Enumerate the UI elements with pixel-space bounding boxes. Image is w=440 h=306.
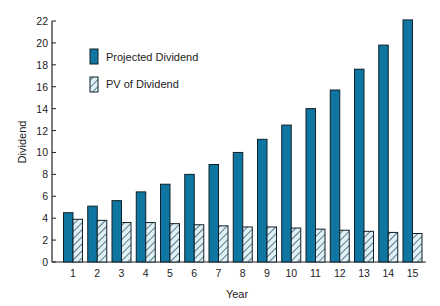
x-tick-label: 12 <box>334 267 346 279</box>
y-tick-label: 18 <box>36 59 48 71</box>
x-tick-label: 9 <box>264 267 270 279</box>
bar-pv-of-dividend <box>340 230 350 262</box>
legend-label-pv: PV of Dividend <box>106 78 179 90</box>
bar-pv-of-dividend <box>146 223 156 262</box>
y-tick-label: 8 <box>42 168 48 180</box>
y-tick-label: 22 <box>36 15 48 27</box>
legend-swatch-pv <box>90 77 98 92</box>
bar-pv-of-dividend <box>73 219 83 262</box>
x-tick-label: 8 <box>240 267 246 279</box>
x-axis-label: Year <box>226 288 249 300</box>
bar-pv-of-dividend <box>413 234 423 262</box>
x-tick-label: 4 <box>143 267 149 279</box>
x-tick-label: 10 <box>285 267 297 279</box>
y-tick-label: 6 <box>42 190 48 202</box>
y-tick-label: 14 <box>36 103 48 115</box>
x-tick-label: 15 <box>407 267 419 279</box>
x-tick-label: 11 <box>310 267 321 279</box>
bar-pv-of-dividend <box>97 220 107 262</box>
x-tick-label: 3 <box>119 267 125 279</box>
bar-projected-dividend <box>161 184 171 262</box>
bar-projected-dividend <box>403 20 413 262</box>
y-tick-label: 2 <box>42 234 48 246</box>
x-tick-label: 13 <box>358 267 370 279</box>
x-tick-label: 14 <box>382 267 394 279</box>
bar-projected-dividend <box>330 90 340 262</box>
bar-pv-of-dividend <box>122 223 132 262</box>
legend: Projected DividendPV of Dividend <box>90 49 198 92</box>
bar-pv-of-dividend <box>316 229 326 262</box>
bar-pv-of-dividend <box>364 231 374 262</box>
x-tick-label: 6 <box>191 267 197 279</box>
y-tick-label: 10 <box>36 146 48 158</box>
bar-pv-of-dividend <box>291 228 301 262</box>
legend-label-projected: Projected Dividend <box>106 51 198 63</box>
bar-projected-dividend <box>282 125 292 262</box>
y-tick-label: 12 <box>36 125 48 137</box>
y-tick-label: 4 <box>42 212 48 224</box>
bar-projected-dividend <box>112 201 122 262</box>
bar-pv-of-dividend <box>243 227 253 262</box>
y-tick-label: 16 <box>36 81 48 93</box>
bar-projected-dividend <box>209 165 219 262</box>
x-tick-label: 7 <box>216 267 222 279</box>
bar-projected-dividend <box>88 206 98 262</box>
bar-projected-dividend <box>258 139 268 262</box>
y-axis-label: Dividend <box>16 121 28 164</box>
bar-projected-dividend <box>306 109 316 262</box>
legend-swatch-projected <box>90 49 98 64</box>
bar-pv-of-dividend <box>194 225 204 262</box>
bar-pv-of-dividend <box>219 226 229 262</box>
bar-projected-dividend <box>233 152 243 262</box>
dividend-bar-chart: 0246810121416182022 12345678910111213141… <box>0 0 440 306</box>
bar-projected-dividend <box>355 69 365 262</box>
bar-pv-of-dividend <box>267 227 277 262</box>
bar-pv-of-dividend <box>388 232 398 262</box>
x-tick-label: 2 <box>94 267 100 279</box>
x-tick-label: 1 <box>70 267 76 279</box>
bar-projected-dividend <box>136 192 146 262</box>
bar-projected-dividend <box>185 174 195 262</box>
bar-projected-dividend <box>64 213 74 262</box>
y-tick-label: 0 <box>42 256 48 268</box>
bar-pv-of-dividend <box>170 224 180 262</box>
bar-projected-dividend <box>379 45 389 262</box>
x-tick-label: 5 <box>167 267 173 279</box>
y-tick-label: 20 <box>36 37 48 49</box>
chart-canvas: 0246810121416182022 12345678910111213141… <box>0 0 440 306</box>
